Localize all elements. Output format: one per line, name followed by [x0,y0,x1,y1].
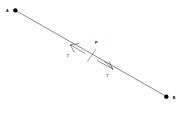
tension-a-label: T [67,54,70,58]
tension-vector-toward-b [97,61,113,70]
point-a-label: A [6,9,9,13]
figure-container: A B P T T [0,0,190,116]
tension-b-label: T [106,74,109,78]
tension-vector-toward-a [70,44,85,54]
tension-a-arrowhead [70,44,78,52]
point-a-dot [13,8,17,12]
point-b-label: B [173,96,176,100]
point-b-dot [164,95,168,99]
segment-ab [15,10,167,97]
rope-tension-diagram: A B P T T [0,0,190,116]
point-p-label: P [95,41,98,45]
